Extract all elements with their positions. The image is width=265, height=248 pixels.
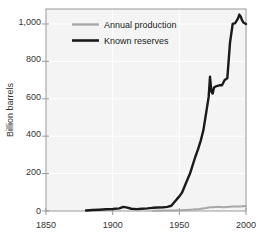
y-axis-title: Billion barrels (5, 82, 15, 137)
y-tick-label-0: 0 (36, 206, 41, 216)
y-tick-label-200: 200 (26, 167, 41, 177)
y-tick-label-1000: 1,000 (18, 17, 41, 27)
oil-reserves-production-line-chart: 1,000 800 600 400 200 0 1850 1900 1950 2… (0, 0, 265, 248)
x-tick-label-1850: 1850 (36, 220, 56, 230)
legend-label-known-reserves: Known reserves (104, 36, 169, 46)
legend-label-annual-production: Annual production (104, 20, 177, 30)
y-tick-label-600: 600 (26, 92, 41, 102)
chart-container: 1,000 800 600 400 200 0 1850 1900 1950 2… (0, 0, 265, 248)
x-tick-label-2000: 2000 (236, 220, 256, 230)
x-tick-label-1900: 1900 (103, 220, 123, 230)
y-tick-label-400: 400 (26, 129, 41, 139)
y-tick-label-800: 800 (26, 54, 41, 64)
x-tick-label-1950: 1950 (169, 220, 189, 230)
